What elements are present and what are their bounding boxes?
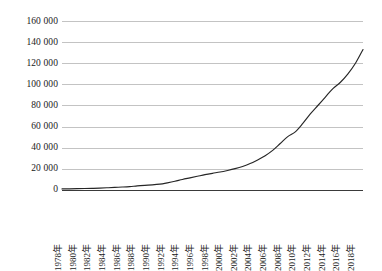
x-tick-label: 1988年: [127, 244, 136, 271]
x-tick-label: 1984年: [98, 244, 107, 271]
x-tick-label: 1994年: [171, 244, 180, 271]
y-axis-labels: 160 000 140 000 120 000 100 000 80 000 6…: [0, 0, 58, 246]
x-tick-label: 1980年: [69, 244, 78, 271]
x-tick-label: 2010年: [288, 244, 297, 271]
x-tick-label: 2012年: [303, 244, 312, 271]
series-line: [62, 21, 363, 190]
y-tick-label: 0: [0, 185, 58, 195]
y-tick-label: 140 000: [0, 38, 58, 48]
y-tick-label: 60 000: [0, 122, 58, 132]
x-tick-label: 1986年: [113, 244, 122, 271]
x-tick-label: 2014年: [318, 244, 327, 271]
y-tick-label: 40 000: [0, 143, 58, 153]
x-tick-label: 1990年: [142, 244, 151, 271]
y-tick-label: 120 000: [0, 59, 58, 69]
x-tick-label: 2008年: [274, 244, 283, 271]
x-tick-label: 2018年: [347, 244, 356, 271]
x-axis-labels: 1978年1980年1982年1984年1986年1988年1990年1992年…: [62, 190, 363, 246]
x-tick-label: 2016年: [332, 244, 341, 271]
x-tick-label: 1998年: [201, 244, 210, 271]
x-tick-label: 1978年: [54, 244, 63, 271]
y-tick-label: 80 000: [0, 101, 58, 111]
x-tick-label: 2004年: [244, 244, 253, 271]
x-tick-label: 1982年: [83, 244, 92, 271]
x-tick-label: 2006年: [259, 244, 268, 271]
x-tick-label: 2000年: [215, 244, 224, 271]
x-tick-label: 1996年: [186, 244, 195, 271]
x-tick-label: 2002年: [230, 244, 239, 271]
y-tick-label: 100 000: [0, 80, 58, 90]
x-tick-label: 1992年: [157, 244, 166, 271]
y-tick-label: 160 000: [0, 17, 58, 27]
y-tick-label: 20 000: [0, 164, 58, 174]
